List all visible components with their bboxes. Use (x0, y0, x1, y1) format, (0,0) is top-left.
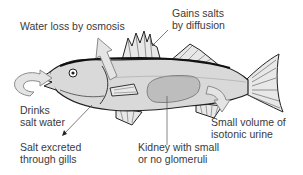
kidney-label-line1: Kidney with small (138, 142, 219, 153)
gains-salts-leader (152, 30, 168, 46)
gains-salts-label-line2: by diffusion (172, 20, 225, 31)
drinks-label-line2: salt water (20, 117, 65, 128)
drinks-label-line1: Drinks (20, 105, 50, 116)
salt-excreted-label-line2: through gills (20, 154, 77, 165)
spiny-dorsal-fin (122, 31, 160, 60)
fish-osmoregulation-diagram: Water loss by osmosis Gains salts by dif… (0, 0, 303, 175)
salt-excreted-label-line1: Salt excreted (20, 142, 81, 153)
urine-label-line1: Small volume of (211, 117, 286, 128)
gains-salts-label-line1: Gains salts (172, 8, 224, 19)
kidney-label-line2: or no glomeruli (138, 154, 207, 165)
drinks-arrow (15, 70, 52, 96)
salt-excreted-leader (64, 105, 92, 134)
urine-label-line2: isotonic urine (211, 129, 273, 140)
water-loss-label: Water loss by osmosis (20, 21, 125, 32)
tail-fin (246, 54, 283, 112)
